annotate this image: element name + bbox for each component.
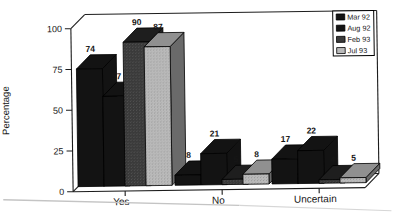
bar-jul-93-uncertain-front	[340, 177, 366, 183]
y-tick-label: 0	[59, 187, 64, 197]
bar-value-label: 8	[186, 150, 191, 160]
y-axis: 0255075100Percentage	[0, 24, 73, 198]
bar-jul-93-yes-side	[170, 32, 186, 185]
scan-line-right	[239, 203, 391, 213]
bar-value-label: 87	[153, 22, 163, 32]
backwall-right-edge	[377, 10, 379, 173]
bar-value-label: 17	[281, 134, 291, 144]
y-tick-label: 50	[53, 106, 63, 116]
bar-value-label: 5	[233, 154, 238, 164]
legend-swatch	[337, 36, 346, 42]
legend-swatch	[336, 25, 345, 31]
bar-mar-92-no-front	[175, 175, 201, 185]
y-axis-title: Percentage	[0, 86, 11, 135]
bar-value-label: 21	[210, 128, 220, 138]
bar-mar-92-uncertain-front	[272, 159, 298, 184]
bar-chart-3d: 0255075100Percentage74579087Yes82158No17…	[0, 0, 392, 220]
bar-jul-93-no-front	[243, 174, 269, 184]
bar-mar-92-yes-front	[76, 69, 104, 187]
bar-chart-svg: 0255075100Percentage74579087Yes82158No17…	[0, 0, 392, 220]
bar-value-label: 57	[112, 71, 122, 81]
bar-value-label: 8	[254, 149, 259, 159]
bar-value-label: 90	[132, 17, 142, 27]
bar-value-label: 4	[330, 155, 335, 165]
y-tick-label: 100	[47, 24, 62, 34]
top-left-depth-edge	[71, 15, 85, 29]
y-tick-label: 25	[54, 146, 64, 156]
legend-swatch	[336, 14, 345, 20]
x-category-label: Uncertain	[294, 193, 337, 205]
legend-label: Mar 92	[347, 12, 370, 21]
floor-front-edge	[73, 188, 365, 192]
y-tick-label: 75	[52, 65, 62, 75]
bar-value-label: 74	[85, 44, 95, 54]
legend-label: Aug 92	[347, 24, 370, 33]
legend-label: Feb 93	[347, 35, 370, 44]
bar-value-label: 5	[351, 153, 356, 163]
bar-jul-93-yes-front	[144, 47, 172, 186]
legend-label: Jul 93	[348, 46, 368, 55]
bar-value-label: 22	[307, 125, 317, 135]
legend: Mar 92Aug 92Feb 93Jul 93	[333, 11, 375, 57]
x-category-label: Yes	[113, 196, 129, 207]
legend-swatch	[337, 48, 346, 54]
